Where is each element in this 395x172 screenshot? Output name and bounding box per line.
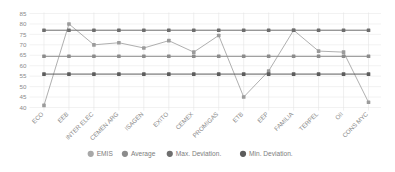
data-point-marker (117, 28, 121, 32)
data-point-marker (92, 43, 96, 47)
data-point-marker (142, 72, 146, 76)
x-category-label: ISAGEN (123, 110, 144, 131)
x-category-label: PROMIGAS (191, 110, 220, 139)
legend-label[interactable]: Max. Deviation. (176, 150, 222, 157)
legend-swatch[interactable] (167, 151, 173, 157)
data-point-marker (267, 72, 271, 76)
data-point-marker (367, 72, 371, 76)
data-point-marker (317, 72, 321, 76)
data-point-marker (267, 55, 271, 59)
data-point-marker (92, 72, 96, 76)
line-chart: 40455055606570758085 ECOEEBINTER ELECCEM… (0, 0, 395, 172)
data-point-marker (117, 72, 121, 76)
data-point-marker (67, 55, 71, 59)
data-point-marker (42, 55, 46, 59)
legend-label[interactable]: Min. Deviation. (249, 150, 293, 157)
data-point-marker (292, 72, 296, 76)
x-category-label: EEB (56, 110, 70, 124)
data-point-marker (167, 72, 171, 76)
y-tick-label: 45 (20, 93, 27, 100)
data-point-marker (217, 28, 221, 32)
x-category-label: EEP (256, 110, 270, 124)
x-category-label: OII (333, 110, 344, 121)
series-lines (44, 24, 369, 105)
y-axis-tick-labels: 40455055606570758085 (20, 10, 27, 111)
data-point-marker (367, 100, 371, 104)
data-point-marker (42, 104, 46, 108)
data-point-marker (342, 28, 346, 32)
data-point-marker (42, 28, 46, 32)
data-point-marker (267, 28, 271, 32)
data-point-marker (367, 55, 371, 59)
legend-swatch[interactable] (240, 151, 246, 157)
data-point-marker (242, 95, 246, 99)
data-point-marker (142, 55, 146, 59)
data-point-marker (142, 28, 146, 32)
plot-area: 40455055606570758085 ECOEEBINTER ELECCEM… (0, 0, 395, 172)
data-point-marker (292, 28, 296, 32)
data-point-marker (67, 28, 71, 32)
data-point-marker (342, 72, 346, 76)
data-point-marker (167, 39, 171, 43)
data-point-marker (242, 28, 246, 32)
data-point-marker (192, 55, 196, 59)
x-category-label: CEMEX (174, 110, 195, 131)
x-category-label: ECO (30, 110, 45, 125)
data-point-marker (267, 69, 271, 73)
data-point-marker (217, 72, 221, 76)
data-point-marker (67, 72, 71, 76)
legend-label[interactable]: Average (131, 150, 156, 158)
x-category-label: TERPEL (297, 110, 319, 132)
x-category-label: CONS MYC (341, 110, 370, 139)
series-markers (42, 22, 370, 107)
data-point-marker (242, 72, 246, 76)
data-point-marker (342, 55, 346, 59)
legend-swatch[interactable] (122, 151, 128, 157)
data-point-marker (217, 55, 221, 59)
series-line-emis (44, 24, 369, 105)
y-tick-label: 70 (20, 41, 27, 48)
data-point-marker (42, 72, 46, 76)
y-tick-label: 75 (20, 31, 27, 38)
data-point-marker (192, 28, 196, 32)
x-axis-category-labels: ECOEEBINTER ELECCEMEN ARGISAGENEXITOCEME… (30, 110, 369, 142)
data-point-marker (317, 28, 321, 32)
y-tick-label: 65 (20, 51, 27, 58)
data-point-marker (117, 55, 121, 59)
horizontal-gridlines (30, 14, 382, 108)
y-tick-label: 40 (20, 104, 27, 111)
y-tick-label: 60 (20, 62, 27, 69)
legend-swatch[interactable] (88, 151, 94, 157)
data-point-marker (167, 28, 171, 32)
x-category-label: EXITO (152, 110, 170, 128)
data-point-marker (217, 34, 221, 38)
data-point-marker (317, 49, 321, 53)
legend-label[interactable]: EMIS (97, 150, 114, 157)
y-tick-label: 80 (20, 20, 27, 27)
y-tick-label: 85 (20, 10, 27, 17)
chart-legend: EMISAverageMax. Deviation.Min. Deviation… (88, 150, 293, 158)
data-point-marker (192, 72, 196, 76)
vertical-gridlines (44, 13, 369, 111)
data-point-marker (292, 55, 296, 59)
data-point-marker (117, 41, 121, 45)
x-category-label: FAMILIA (273, 110, 295, 132)
data-point-marker (317, 55, 321, 59)
x-category-label: ETB (231, 110, 244, 123)
data-point-marker (192, 50, 196, 54)
data-point-marker (92, 55, 96, 59)
data-point-marker (342, 50, 346, 54)
data-point-marker (142, 46, 146, 50)
data-point-marker (92, 28, 96, 32)
data-point-marker (242, 55, 246, 59)
chart-container: 40455055606570758085 ECOEEBINTER ELECCEM… (0, 0, 395, 172)
y-tick-label: 50 (20, 83, 27, 90)
data-point-marker (367, 28, 371, 32)
data-point-marker (167, 55, 171, 59)
y-tick-label: 55 (20, 72, 27, 79)
data-point-marker (67, 22, 71, 26)
